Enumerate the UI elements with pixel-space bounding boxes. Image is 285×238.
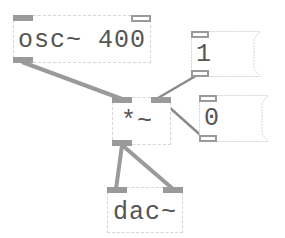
outlet-mul[interactable] [112, 140, 132, 146]
message-box-0[interactable]: 0 [199, 95, 269, 142]
message-box-1[interactable]: 1 [191, 31, 261, 77]
inlet-msg1[interactable] [191, 31, 209, 38]
outlet-osc[interactable] [13, 57, 33, 63]
inlet-dac-right[interactable] [163, 187, 183, 193]
outlet-msg1[interactable] [191, 70, 209, 77]
object-osc[interactable]: osc~ 400 [13, 15, 151, 63]
object-label: dac~ [113, 200, 177, 225]
patch-canvas[interactable]: osc~ 400 1 0 *~ dac~ [0, 0, 285, 238]
inlet-osc-left[interactable] [13, 15, 33, 21]
inlet-mul-left[interactable] [112, 97, 132, 103]
object-dac[interactable]: dac~ [107, 187, 183, 233]
inlet-msg0[interactable] [199, 95, 217, 102]
inlet-mul-right[interactable] [151, 97, 171, 103]
cord-mul-to-dac-left [116, 145, 122, 189]
object-label: *~ [121, 109, 153, 134]
cord-osc-to-mul [22, 62, 122, 99]
object-label: osc~ 400 [18, 28, 146, 53]
inlet-osc-right[interactable] [131, 15, 151, 22]
cord-mul-to-dac-right [122, 145, 173, 189]
outlet-msg0[interactable] [199, 135, 217, 142]
message-label: 1 [196, 42, 212, 67]
object-multiply[interactable]: *~ [112, 97, 171, 145]
message-label: 0 [204, 106, 220, 131]
inlet-dac-left[interactable] [107, 187, 127, 193]
cord-msg1-to-mul [158, 74, 199, 98]
